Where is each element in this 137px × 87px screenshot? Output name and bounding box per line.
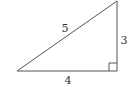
- right-angle-marker: [109, 63, 117, 71]
- base-label: 4: [65, 74, 72, 87]
- triangle-diagram: 5 3 4: [0, 0, 137, 87]
- triangle-outline: [17, 1, 117, 71]
- vertical-leg-label: 3: [121, 34, 128, 47]
- hypotenuse-label: 5: [62, 22, 69, 35]
